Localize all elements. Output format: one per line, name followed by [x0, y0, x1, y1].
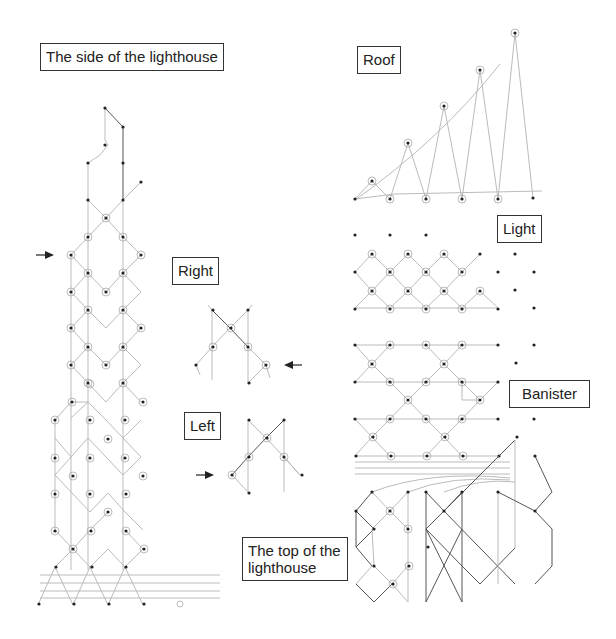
label-banister: Banister — [509, 380, 590, 408]
light-pattern — [353, 233, 535, 313]
label-top-of-lighthouse: The top of the lighthouse — [242, 537, 348, 581]
side-pins — [37, 106, 183, 607]
right-arrow-icon — [284, 361, 302, 369]
label-roof: Roof — [357, 46, 401, 74]
label-side-of-lighthouse: The side of the lighthouse — [40, 43, 224, 71]
right-pattern — [194, 305, 270, 385]
left-arrow-icon — [196, 471, 214, 479]
side-of-lighthouse-pattern — [38, 108, 220, 605]
label-left: Left — [184, 412, 221, 440]
top-of-lighthouse-pattern — [354, 440, 552, 602]
label-right: Right — [172, 257, 219, 285]
left-pattern — [228, 418, 304, 494]
label-light: Light — [497, 215, 542, 243]
side-arrow-icon — [36, 251, 54, 259]
